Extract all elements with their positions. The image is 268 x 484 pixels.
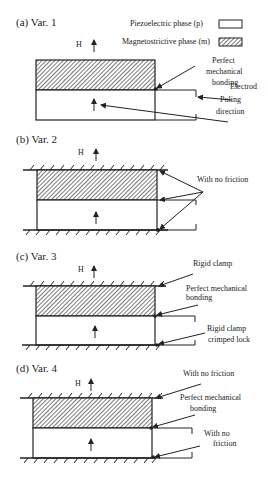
panel-a-bonding-line2: mechanical bbox=[206, 67, 243, 76]
contact-point-icon bbox=[156, 228, 160, 232]
panel-c-crimp-line2: crimped lock bbox=[208, 335, 250, 344]
panel-a-h-label: H bbox=[76, 40, 82, 49]
panel-b-friction-label: With no friction bbox=[197, 175, 248, 184]
electrode-wire-top bbox=[155, 316, 195, 322]
top-clamp-hatching bbox=[30, 281, 164, 286]
panel-a-title: (a) Var. 1 bbox=[16, 16, 56, 29]
piezoelectric-layer bbox=[37, 200, 157, 230]
magnetostrictive-layer bbox=[33, 398, 152, 428]
panel-d-title: (d) Var. 4 bbox=[16, 362, 58, 375]
panel-d-h-label: H bbox=[75, 379, 81, 388]
bottom-clamp-hatching bbox=[26, 345, 160, 350]
piezoelectric-layer bbox=[33, 428, 152, 458]
panel-b: (b) Var. 2 H With no friction bbox=[16, 133, 248, 235]
crimp-leader-line bbox=[159, 333, 205, 344]
diagram-canvas: Piezoelectric phase (p) Magnetostrictive… bbox=[0, 0, 268, 484]
panel-a-poling-line1: Poling bbox=[220, 95, 241, 104]
legend-magneto-swatch bbox=[219, 38, 242, 46]
bonding-point-icon bbox=[149, 426, 153, 430]
panel-a: (a) Var. 1 H Perfect mechanical bonding … bbox=[16, 16, 257, 122]
panel-d: (d) Var. 4 H With no friction Perfect me… bbox=[16, 362, 242, 463]
bonding-leader-line bbox=[157, 305, 198, 315]
friction-leader-bottom bbox=[160, 192, 203, 229]
panel-b-title: (b) Var. 2 bbox=[16, 133, 57, 146]
panel-b-h-label: H bbox=[78, 148, 84, 157]
top-wall-hatching bbox=[28, 393, 162, 398]
friction-bottom-leader-line bbox=[155, 446, 200, 457]
legend-magneto-label: Magnetostrictive phase (m) bbox=[122, 37, 210, 46]
panel-c-h-label: H bbox=[78, 265, 84, 274]
panel-d-bonding-line1: Perfect mechanical bbox=[180, 393, 242, 402]
top-wall-hatching bbox=[30, 165, 164, 170]
electrode-wire-bottom bbox=[155, 340, 195, 345]
bonding-leader-line bbox=[153, 415, 195, 427]
legend-piezo-label: Piezoelectric phase (p) bbox=[130, 19, 203, 28]
panel-c-crimp-line1: Rigid clamp bbox=[207, 324, 246, 333]
panel-c-bonding-line1: Perfect mechanical bbox=[186, 284, 248, 293]
bottom-wall-hatching bbox=[24, 458, 156, 463]
legend-piezo-swatch bbox=[219, 20, 242, 28]
panel-a-electrode-label: Electrod bbox=[230, 82, 257, 91]
electrode-wire-top bbox=[152, 428, 192, 434]
panel-d-friction-top-label: With no friction bbox=[183, 369, 234, 378]
panel-d-friction-bottom-line1: With no bbox=[204, 429, 230, 438]
magnetostrictive-layer bbox=[37, 170, 157, 200]
panel-c: (c) Var. 3 H Rigid clamp Perfect mechani… bbox=[16, 250, 250, 350]
panel-c-bonding-line2: bonding bbox=[186, 293, 212, 302]
panel-d-bonding-line2: bonding bbox=[190, 404, 216, 413]
magnetostrictive-layer bbox=[36, 60, 155, 90]
panel-c-clamp-label: Rigid clamp bbox=[193, 259, 232, 268]
panel-c-title: (c) Var. 3 bbox=[16, 250, 57, 263]
panel-a-poling-line2: direction bbox=[216, 107, 244, 116]
bonding-point-icon bbox=[153, 314, 157, 318]
panel-a-bonding-line1: Perfect bbox=[212, 56, 235, 65]
friction-leader-middle bbox=[160, 192, 203, 200]
piezoelectric-layer bbox=[36, 90, 155, 120]
contact-point-icon bbox=[151, 455, 155, 459]
crimp-point-icon bbox=[155, 343, 159, 347]
electrode-wire-top bbox=[155, 90, 196, 97]
magnetostrictive-layer bbox=[36, 286, 155, 316]
bottom-wall-hatching bbox=[26, 230, 160, 235]
legend: Piezoelectric phase (p) Magnetostrictive… bbox=[122, 19, 242, 46]
panel-d-friction-bottom-line2: friction bbox=[213, 439, 237, 448]
bonding-leader-line bbox=[157, 66, 195, 88]
